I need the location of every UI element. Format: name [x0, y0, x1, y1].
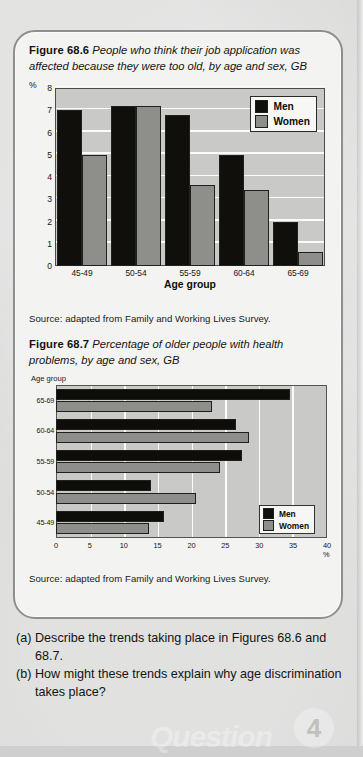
gridline — [56, 197, 324, 199]
hchart-legend: Men Women — [259, 505, 315, 534]
x-tick-label: 45-49 — [55, 268, 109, 278]
x-tick-label: 0 — [54, 541, 58, 550]
x-tick-label: 60-64 — [217, 268, 271, 278]
y-tick-label: 7 — [35, 105, 52, 115]
y-tick-label: 50-54 — [29, 477, 54, 508]
gridline — [225, 386, 226, 537]
x-tick-label: 35 — [289, 541, 297, 550]
question-item: (b) How might these trends explain why a… — [16, 666, 348, 701]
x-tick-label: 30 — [255, 541, 263, 550]
gridline — [192, 386, 193, 537]
gridline — [158, 386, 159, 537]
hchart-y-axis-title: Age group — [31, 374, 66, 383]
vchart-legend: Men Women — [250, 96, 317, 132]
question-tag: (a) — [16, 630, 35, 665]
x-tick-label: 10 — [120, 541, 128, 550]
figure-686-number: Figure 68.6 — [29, 44, 89, 56]
watermark-badge: 4 — [294, 708, 334, 748]
gridline — [91, 386, 92, 537]
figure-panel: Figure 68.6 People who think their job a… — [13, 30, 343, 619]
figure-686-caption: Figure 68.6 People who think their job a… — [29, 43, 327, 74]
figure-686-chart: % 012345678 45-4950-5455-5960-6465-69 Ag… — [29, 82, 331, 297]
figure-687-caption: Figure 68.7 Percentage of older people w… — [29, 337, 327, 368]
y-tick-label: 3 — [35, 194, 52, 204]
watermark-graphic: Question 4 — [150, 708, 340, 757]
hchart-y-tick-labels: 65-6960-6455-5950-5445-49 — [29, 385, 54, 538]
legend-row-men: Men — [263, 508, 309, 519]
x-tick-label: 50-54 — [109, 268, 163, 278]
y-tick-label: 5 — [35, 150, 52, 160]
x-tick-label: 40 % — [323, 541, 331, 559]
y-tick-label: 65-69 — [29, 385, 54, 416]
figure-687-chart: Age group 65-6960-6455-5950-5445-49 0510… — [29, 374, 331, 564]
x-tick-label: 65-69 — [271, 268, 325, 278]
legend-label-women: Women — [279, 521, 309, 531]
question-text: Describe the trends taking place in Figu… — [35, 630, 348, 665]
y-tick-label: 6 — [35, 128, 52, 138]
x-tick-label: 15 — [154, 541, 162, 550]
gridline — [124, 386, 125, 537]
legend-swatch-men-icon — [263, 508, 274, 519]
y-tick-label: 8 — [35, 83, 52, 93]
vchart-x-axis-title: Age group — [55, 279, 325, 290]
legend-label-men: Men — [273, 101, 293, 112]
y-tick-label: 2 — [35, 217, 52, 227]
x-tick-label: 25 — [221, 541, 229, 550]
question-text: How might these trends explain why age d… — [35, 666, 348, 701]
gridline — [56, 152, 324, 154]
legend-label-men: Men — [279, 509, 296, 519]
gridline — [56, 175, 324, 177]
x-tick-label: 20 — [187, 541, 195, 550]
question-tag: (b) — [16, 666, 35, 701]
questions-list: (a) Describe the trends taking place in … — [16, 630, 348, 702]
figure-687-source: Source: adapted from Family and Working … — [29, 573, 327, 584]
legend-label-women: Women — [273, 116, 310, 127]
gridline — [56, 219, 324, 221]
vchart-x-tick-labels: 45-4950-5455-5960-6465-69 — [55, 268, 325, 278]
figure-687-number: Figure 68.7 — [29, 338, 89, 350]
legend-row-women: Women — [255, 115, 310, 128]
y-tick-label: 1 — [35, 239, 52, 249]
legend-row-men: Men — [255, 100, 310, 113]
legend-swatch-women-icon — [255, 115, 268, 128]
figure-686-source: Source: adapted from Family and Working … — [29, 313, 327, 324]
y-tick-label: 60-64 — [29, 416, 54, 447]
y-tick-label: 45-49 — [29, 507, 54, 538]
x-tick-label: 55-59 — [163, 268, 217, 278]
gridline — [56, 241, 324, 243]
gridline — [56, 86, 324, 88]
y-tick-label: 0 — [35, 261, 52, 271]
legend-row-women: Women — [263, 520, 309, 531]
legend-swatch-women-icon — [263, 520, 274, 531]
y-tick-label: 4 — [35, 172, 52, 182]
watermark-word: Question — [150, 720, 272, 754]
hchart-x-tick-labels: 0510152025303540 % — [56, 541, 327, 553]
question-item: (a) Describe the trends taking place in … — [16, 630, 348, 665]
legend-swatch-men-icon — [255, 100, 268, 113]
y-tick-label: 55-59 — [29, 446, 54, 477]
page-edge-shadow — [357, 0, 363, 746]
x-tick-label: 5 — [88, 541, 92, 550]
